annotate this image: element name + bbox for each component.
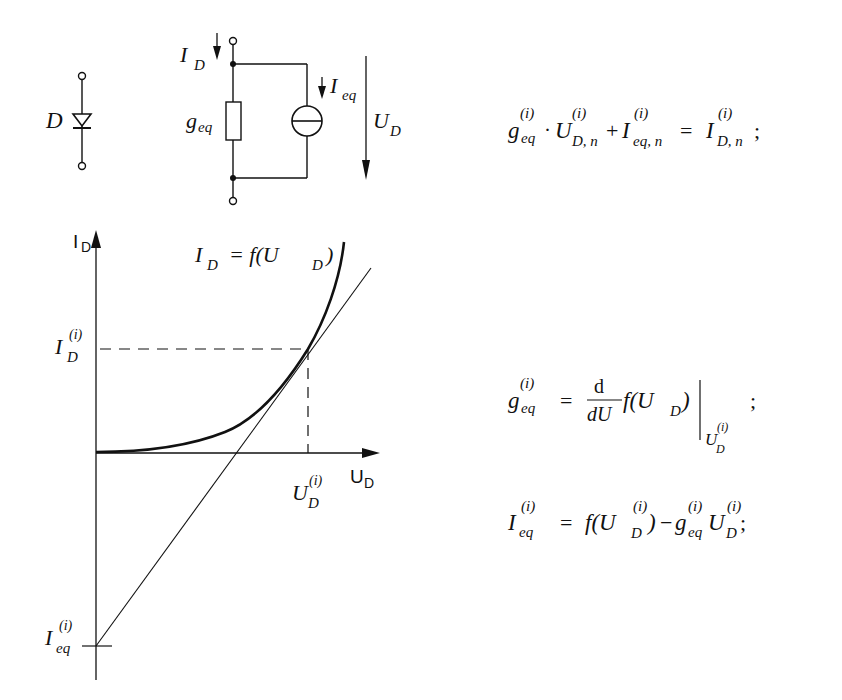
svg-text:I: I xyxy=(179,42,189,67)
node-equation: g (i) eq · U (i) D, n + I (i) eq, n = I … xyxy=(508,105,760,149)
svg-text:D: D xyxy=(364,475,374,491)
svg-text:D: D xyxy=(389,123,401,139)
svg-text:(i): (i) xyxy=(309,473,323,489)
svg-text:D: D xyxy=(311,257,323,273)
x-axis-arrow-icon xyxy=(362,448,380,458)
diode-characteristic-curve xyxy=(96,242,344,452)
svg-text:=: = xyxy=(560,388,572,413)
svg-text:;: ; xyxy=(754,118,760,143)
svg-text:U: U xyxy=(555,118,573,143)
svg-text:U: U xyxy=(708,510,726,535)
characteristic-graph: I D U D I D = f(U D ) I (i) D U (i) D I … xyxy=(44,230,380,680)
svg-text:D: D xyxy=(193,57,205,73)
svg-text:g: g xyxy=(508,388,520,413)
svg-text:I: I xyxy=(621,118,631,143)
svg-text:(i): (i) xyxy=(520,105,534,122)
svg-text:): ) xyxy=(646,510,656,535)
svg-text:I: I xyxy=(705,118,715,143)
source-equation: I (i) eq = f(U (i) D ) − g (i) eq U (i) … xyxy=(507,498,746,541)
diode-triangle-icon xyxy=(73,114,91,126)
svg-text:=: = xyxy=(680,118,692,143)
svg-text:eq: eq xyxy=(688,524,703,540)
svg-text:D: D xyxy=(206,257,218,273)
svg-text:(i): (i) xyxy=(717,420,728,434)
diode-label: D xyxy=(45,108,63,133)
svg-text:eq: eq xyxy=(342,87,357,103)
current-arrow-icon xyxy=(213,46,221,60)
svg-text:eq: eq xyxy=(198,119,213,135)
diode-linearization-figure: D I D I eq g eq U D xyxy=(0,0,842,700)
svg-text:g: g xyxy=(186,108,197,133)
svg-text:−: − xyxy=(660,510,672,535)
svg-text:(i): (i) xyxy=(633,498,647,515)
svg-text:(i): (i) xyxy=(521,498,535,515)
terminal-top xyxy=(79,73,86,80)
svg-text:D: D xyxy=(66,349,78,365)
svg-text:U: U xyxy=(373,108,391,133)
svg-text:I: I xyxy=(507,510,517,535)
svg-text:(i): (i) xyxy=(69,327,83,343)
svg-text:;: ; xyxy=(740,510,746,535)
conductance-equation: g (i) eq = d dU f(U D ) U (i) D ; xyxy=(508,375,756,456)
conductance-resistor xyxy=(226,102,241,140)
svg-text:D: D xyxy=(715,442,725,456)
svg-text:D: D xyxy=(630,525,642,541)
svg-text:I: I xyxy=(73,231,78,252)
svg-text:g: g xyxy=(508,118,520,143)
diode-symbol: D xyxy=(45,73,91,170)
svg-text:f(U: f(U xyxy=(623,388,655,413)
tangent-line xyxy=(96,268,371,646)
svg-text:g: g xyxy=(675,510,687,535)
svg-text:(i): (i) xyxy=(634,105,648,122)
voltage-arrow-icon xyxy=(362,160,370,180)
terminal-bottom xyxy=(79,163,86,170)
svg-text:;: ; xyxy=(750,388,756,413)
svg-text:I: I xyxy=(44,625,54,650)
svg-text:): ) xyxy=(680,388,690,413)
svg-text:eq: eq xyxy=(521,400,536,416)
svg-text:I: I xyxy=(194,242,204,267)
svg-text:eq: eq xyxy=(521,130,536,146)
svg-text:): ) xyxy=(324,242,333,267)
svg-text:U: U xyxy=(350,466,364,487)
svg-text:D, n: D, n xyxy=(571,133,598,149)
svg-text:d: d xyxy=(594,375,604,397)
svg-text:I: I xyxy=(54,334,64,359)
svg-text:eq: eq xyxy=(519,524,534,540)
svg-text:D: D xyxy=(669,403,681,419)
svg-text:+: + xyxy=(606,118,618,143)
svg-text:(i): (i) xyxy=(59,618,73,634)
svg-text:D, n: D, n xyxy=(716,133,743,149)
svg-text:= f(U: = f(U xyxy=(229,242,281,267)
svg-text:D: D xyxy=(307,495,319,511)
svg-text:D: D xyxy=(81,239,91,255)
svg-text:D: D xyxy=(725,525,737,541)
y-axis-arrow-icon xyxy=(91,230,101,248)
svg-text:eq: eq xyxy=(56,640,71,656)
svg-text:dU: dU xyxy=(587,403,613,425)
svg-text:(i): (i) xyxy=(718,105,732,122)
svg-text:=: = xyxy=(560,510,572,535)
equivalent-circuit: I D I eq g eq U D xyxy=(179,33,401,205)
svg-text:f(U: f(U xyxy=(585,510,617,535)
svg-text:eq, n: eq, n xyxy=(633,133,662,149)
svg-text:I: I xyxy=(329,73,339,98)
svg-text:(i): (i) xyxy=(520,375,534,392)
svg-text:(i): (i) xyxy=(572,105,586,122)
source-current-arrow-icon xyxy=(318,86,326,99)
svg-text:(i): (i) xyxy=(688,498,702,515)
svg-text:·: · xyxy=(544,118,551,142)
